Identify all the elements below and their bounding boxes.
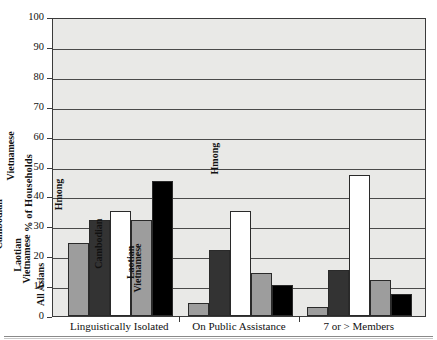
bar-all-asians-group-3 — [307, 307, 328, 316]
bar-cambodian-group-1 — [89, 220, 110, 316]
bar-hmong-group-3 — [349, 175, 370, 316]
gridline — [53, 169, 425, 170]
y-axis-tick-mark — [47, 317, 52, 318]
gridline — [53, 79, 425, 80]
gridline — [53, 139, 425, 140]
y-axis-tick-label: 20 — [18, 251, 44, 261]
gridline — [53, 49, 425, 50]
bar-vietnamese-group-3 — [391, 294, 412, 316]
y-axis-tick-label: 40 — [18, 191, 44, 201]
bar-cambodian-group-2 — [209, 250, 230, 316]
bar-all-asians-group-2 — [188, 303, 209, 316]
bar-laotian-group-3 — [370, 280, 391, 316]
gridline — [53, 109, 425, 110]
bar-chart-figure: % of Households 0102030405060708090100 A… — [0, 0, 437, 340]
bar-laotian-group-2 — [251, 273, 272, 316]
y-axis-tick-label: 70 — [18, 102, 44, 112]
footer-rule-shadow — [4, 338, 433, 339]
y-axis-tick-label: 90 — [18, 42, 44, 52]
y-axis-tick-label: 10 — [18, 281, 44, 291]
x-axis-group-label: 7 or > Members — [286, 320, 431, 333]
y-axis-tick-label: 0 — [18, 311, 44, 321]
plot-area: All AsiansCambodianHmongLaotianVietnames… — [52, 18, 426, 317]
y-axis-tick-label: 100 — [18, 12, 44, 22]
bar-all-asians-group-1 — [68, 243, 89, 316]
bar-cambodian-group-3 — [328, 270, 349, 316]
y-axis-tick-label: 50 — [18, 162, 44, 172]
bar-hmong-group-1 — [110, 211, 131, 316]
y-axis-tick-label: 60 — [18, 132, 44, 142]
y-axis-tick-label: 30 — [18, 221, 44, 231]
bar-vietnamese-group-2 — [272, 285, 293, 316]
y-axis-tick-label: 80 — [18, 72, 44, 82]
bar-laotian-group-1 — [131, 220, 152, 316]
bar-hmong-group-2 — [230, 211, 251, 316]
footer-rule — [4, 336, 433, 337]
bar-vietnamese-group-1 — [152, 181, 173, 316]
